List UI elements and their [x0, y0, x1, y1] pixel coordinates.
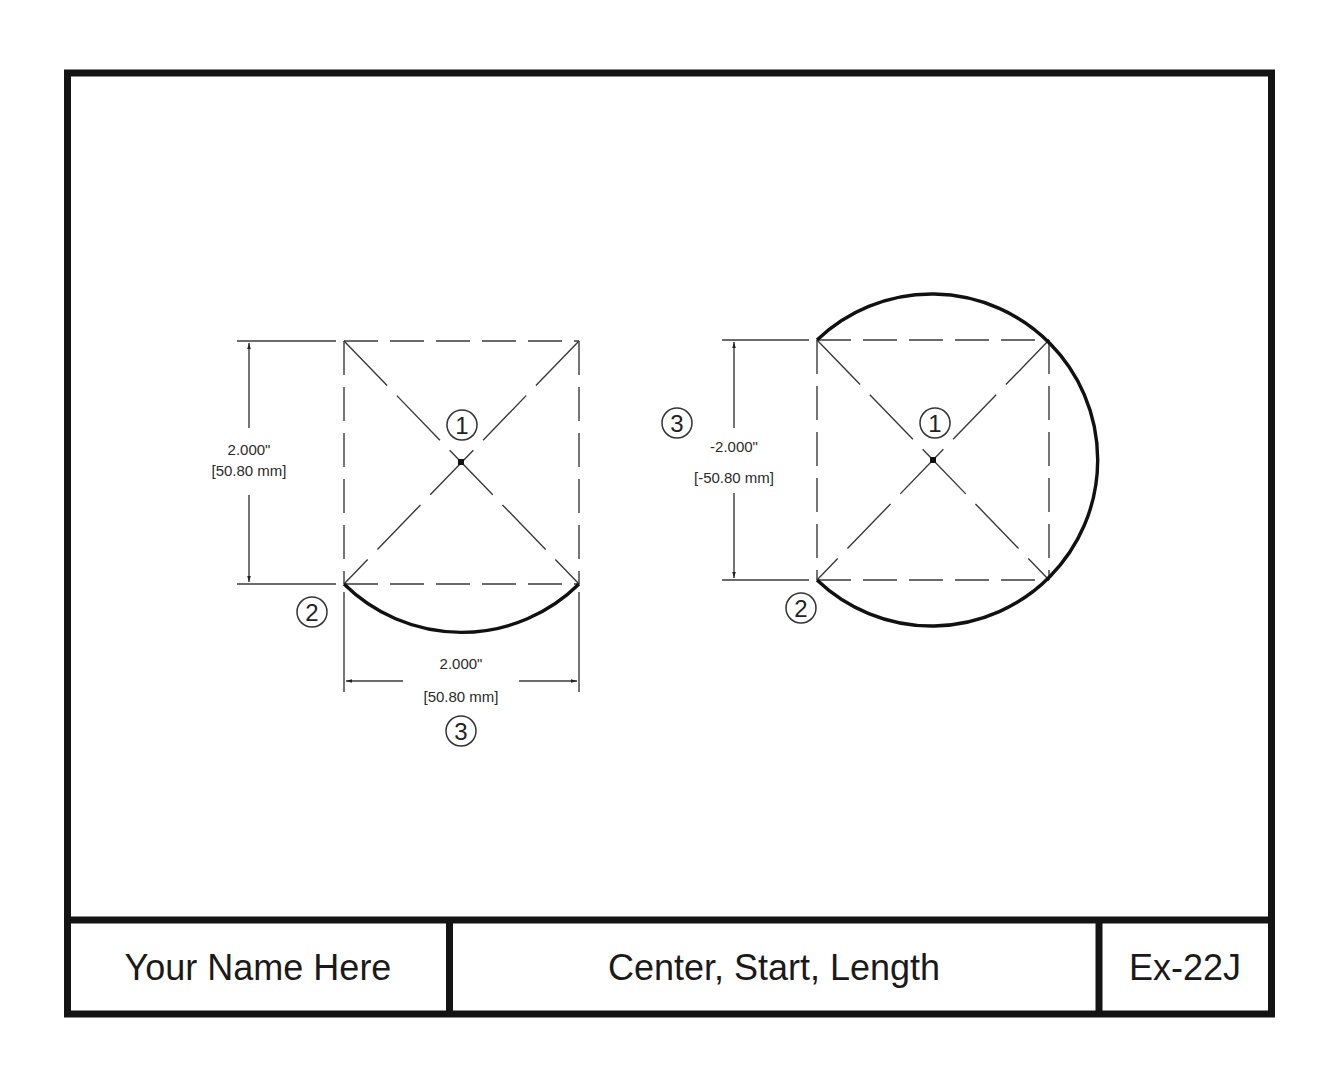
- figure-right: -2.000" [-50.80 mm] 1 2 3: [662, 294, 1098, 626]
- figure-left: 2.000" [50.80 mm] 2.000" [50.80 mm] 1 2 …: [211, 341, 579, 746]
- center-point: [930, 457, 936, 463]
- arc: [817, 294, 1098, 626]
- author-name: Your Name Here: [125, 947, 392, 988]
- callout-start: 2: [297, 597, 327, 627]
- svg-text:1: 1: [455, 412, 468, 439]
- svg-text:1: 1: [928, 410, 941, 437]
- callout-center: 1: [447, 410, 477, 440]
- horizontal-dimension-mm: [50.80 mm]: [423, 688, 498, 705]
- drawing-sheet: Your Name Here Center, Start, Length Ex-…: [0, 0, 1340, 1071]
- horizontal-dimension-inch: 2.000": [440, 655, 483, 672]
- arc: [344, 584, 579, 632]
- svg-text:3: 3: [670, 410, 683, 437]
- vertical-dimension-mm: [-50.80 mm]: [694, 469, 774, 486]
- vertical-dimension-mm: [50.80 mm]: [211, 462, 286, 479]
- callout-center: 1: [920, 408, 950, 438]
- exercise-id: Ex-22J: [1129, 947, 1241, 988]
- vertical-dimension-inch: 2.000": [228, 441, 271, 458]
- vertical-dimension-inch: -2.000": [710, 438, 758, 455]
- title-block: Your Name Here Center, Start, Length Ex-…: [68, 920, 1272, 1014]
- callout-start: 2: [786, 593, 816, 623]
- sheet-border: [68, 73, 1272, 1014]
- drawing-title: Center, Start, Length: [608, 947, 940, 988]
- svg-text:3: 3: [454, 718, 467, 745]
- svg-text:2: 2: [794, 595, 807, 622]
- svg-text:2: 2: [305, 599, 318, 626]
- callout-length: 3: [662, 408, 692, 438]
- center-point: [458, 459, 464, 465]
- callout-length: 3: [446, 716, 476, 746]
